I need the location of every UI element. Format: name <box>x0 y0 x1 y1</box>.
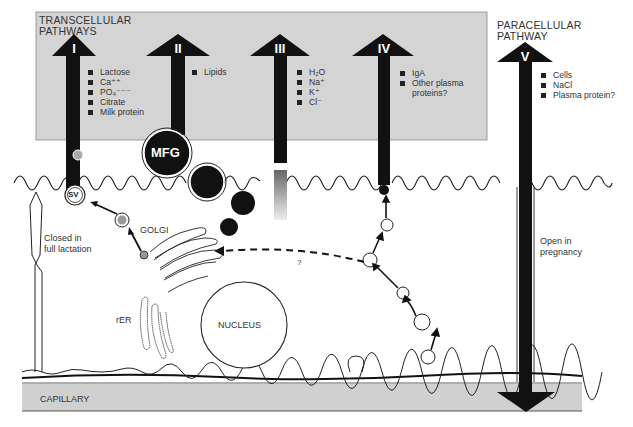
transcytosis-vesicles <box>363 219 435 364</box>
golgi-apparatus <box>150 228 223 292</box>
list-item: IgA <box>400 68 464 78</box>
list-item: Lactose <box>88 67 144 77</box>
transcellular-title: TRANSCELLULAR PATHWAYS <box>39 15 131 37</box>
list-item: Citrate <box>88 97 144 107</box>
basement-membrane <box>22 373 582 379</box>
pathway-iv-items: IgA Other plasma proteins? <box>400 68 464 98</box>
list-item: Na⁺ <box>297 77 325 87</box>
pathway-iv-numeral: IV <box>369 42 399 56</box>
pathway-iii-numeral: III <box>265 42 295 56</box>
closed-label-line2: full lactation <box>44 244 92 255</box>
nucleus-label: NUCLEUS <box>218 320 261 330</box>
pathway-ii-items: Lipids <box>192 67 226 77</box>
capillary-band <box>22 384 582 411</box>
list-item: Plasma protein? <box>541 90 615 100</box>
golgi-label: GOLGI <box>140 225 169 235</box>
list-item: Ca⁺⁺ <box>88 77 144 87</box>
paracellular-title-line2: PATHWAY <box>497 31 582 42</box>
sv-label: SV <box>68 190 79 199</box>
question-mark-label: ? <box>297 258 301 268</box>
diagram-canvas <box>0 0 633 427</box>
list-item: PO₄⁻⁻⁻ <box>88 87 144 97</box>
list-item: NaCl <box>541 80 615 90</box>
transcellular-title-line2: PATHWAYS <box>39 26 131 37</box>
lateral-membrane-left <box>30 192 42 372</box>
pathway-v-items: Cells NaCl Plasma protein? <box>541 70 615 100</box>
pathway-i-numeral: I <box>59 42 89 56</box>
list-item: Cells <box>541 70 615 80</box>
open-label-line2: pregnancy <box>540 247 582 258</box>
closed-junction-label: Closed in full lactation <box>44 233 92 255</box>
paracellular-title: PARACELLULAR PATHWAY <box>497 20 582 42</box>
list-item: Lipids <box>192 67 226 77</box>
list-item: H₂O <box>297 67 325 77</box>
pathway-i-items: Lactose Ca⁺⁺ PO₄⁻⁻⁻ Citrate Milk protein <box>88 67 144 117</box>
list-item: proteins? <box>400 88 464 98</box>
capillary-label: CAPILLARY <box>40 394 89 404</box>
rer-label: rER <box>116 315 132 325</box>
open-label-line1: Open in <box>540 236 582 247</box>
list-item: Milk protein <box>88 107 144 117</box>
pathway-v-numeral: V <box>510 50 540 64</box>
list-item-continuation: proteins? <box>412 88 447 98</box>
list-item: Cl⁻ <box>297 97 325 107</box>
dashed-retrograde-arrow <box>222 249 364 262</box>
open-junction-label: Open in pregnancy <box>540 236 582 258</box>
pathway-iii-items: H₂O Na⁺ K⁺ Cl⁻ <box>297 67 325 107</box>
closed-label-line1: Closed in <box>44 233 92 244</box>
mfg-label: MFG <box>151 145 180 160</box>
list-item: Other plasma <box>400 78 464 88</box>
pathway-ii-numeral: II <box>163 42 193 56</box>
list-item: K⁺ <box>297 87 325 97</box>
rough-er <box>140 297 173 359</box>
